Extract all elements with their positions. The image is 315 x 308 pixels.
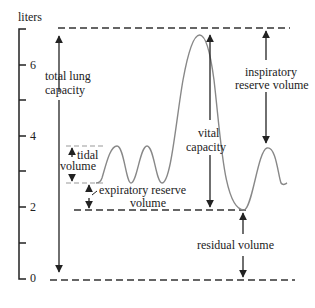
tick-2: 2 [30,200,36,214]
label-irv-2: reserve volume [235,78,309,92]
label-vital-1: vital [198,126,220,140]
label-erv-1: expiratory reserve [99,183,186,197]
label-total-lung-2: capacity [45,83,85,97]
label-vital-2: capacity [186,140,226,154]
label-erv-2: volume [130,196,166,210]
label-residual: residual volume [197,238,274,252]
y-axis-unit: liters [18,10,42,24]
label-tidal-2: volume [60,159,96,173]
tick-0: 0 [30,271,36,285]
tick-4: 4 [30,129,36,143]
tick-6: 6 [30,58,36,72]
y-axis: liters 6 4 2 0 [18,10,42,285]
label-total-lung-1: total lung [45,69,91,83]
lung-volume-diagram: liters 6 4 2 0 total lung capacity tidal… [0,0,315,308]
label-irv-1: inspiratory [245,65,297,79]
